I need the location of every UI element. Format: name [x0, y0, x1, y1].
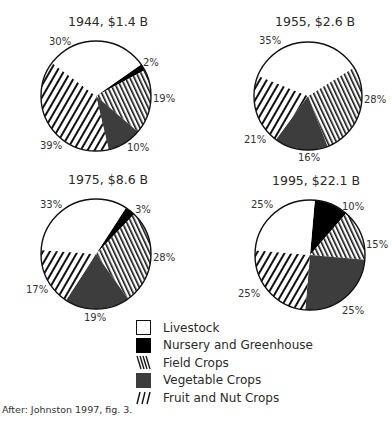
slice-percent-label: 28%: [153, 252, 175, 263]
slice-percent-label: 19%: [153, 93, 175, 104]
field-crops-swatch-icon: [136, 355, 151, 370]
pie-chart-2: [254, 42, 362, 150]
pie-chart-4: [255, 200, 365, 310]
slice-percent-label: 10%: [127, 142, 149, 153]
legend-item-vegetable-crops: Vegetable Crops: [136, 372, 313, 390]
slice-percent-label: 2%: [143, 57, 159, 68]
slice-percent-label: 35%: [259, 35, 281, 46]
slice-percent-label: 3%: [135, 204, 151, 215]
pie-slice-fruit: [255, 250, 310, 310]
slice-percent-label: 39%: [40, 140, 62, 151]
pie-chart-3: [41, 199, 151, 309]
slice-percent-label: 28%: [364, 94, 386, 105]
pie-title: 1975, $8.6 B: [68, 172, 148, 187]
slice-percent-label: 25%: [251, 199, 273, 210]
legend-item-livestock: Livestock: [136, 319, 313, 337]
pie-title: 1955, $2.6 B: [275, 14, 355, 29]
legend: Livestock Nursery and Greenhouse Field C…: [136, 319, 313, 407]
slice-percent-label: 33%: [40, 199, 62, 210]
source-citation: After: Johnston 1997, fig. 3.: [2, 404, 132, 415]
vegetable-crops-swatch-icon: [136, 373, 151, 388]
legend-item-nursery: Nursery and Greenhouse: [136, 337, 313, 355]
nursery-swatch-icon: [136, 338, 151, 353]
pie-title: 1995, $22.1 B: [272, 173, 360, 188]
slice-percent-label: 17%: [26, 284, 48, 295]
pie-chart-1: [41, 41, 151, 151]
slice-percent-label: 25%: [238, 288, 260, 299]
pie-slice-veg: [305, 255, 365, 310]
livestock-swatch-icon: [136, 320, 151, 335]
legend-label: Livestock: [163, 321, 219, 335]
pie-title: 1944, $1.4 B: [68, 14, 148, 29]
legend-item-fruit-nut-crops: Fruit and Nut Crops: [136, 389, 313, 407]
slice-percent-label: 10%: [342, 201, 364, 212]
legend-label: Fruit and Nut Crops: [163, 391, 279, 405]
legend-item-field-crops: Field Crops: [136, 354, 313, 372]
slice-percent-label: 21%: [244, 134, 266, 145]
legend-label: Vegetable Crops: [163, 373, 261, 387]
slice-percent-label: 15%: [366, 239, 388, 250]
slice-percent-label: 16%: [298, 152, 320, 163]
legend-label: Field Crops: [163, 356, 229, 370]
slice-percent-label: 25%: [342, 305, 364, 316]
slice-percent-label: 30%: [49, 36, 71, 47]
slice-percent-label: 19%: [84, 312, 106, 323]
legend-label: Nursery and Greenhouse: [163, 338, 313, 352]
fruit-nut-crops-swatch-icon: [136, 390, 151, 405]
